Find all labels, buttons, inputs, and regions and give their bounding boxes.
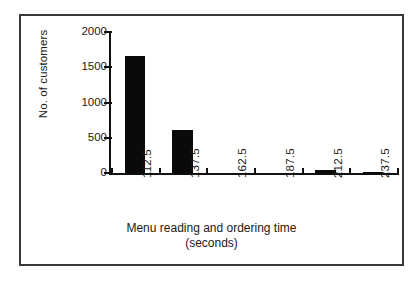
- x-tick-mark: [159, 168, 161, 175]
- y-tick-mark: [104, 102, 112, 104]
- x-tick-label: 137.5: [189, 148, 201, 178]
- x-tick-label: 162.5: [236, 148, 248, 178]
- x-tick-mark: [302, 168, 304, 175]
- y-tick-mark: [104, 31, 112, 33]
- x-tick-mark: [349, 168, 351, 175]
- x-axis-title: Menu reading and ordering time (seconds): [21, 221, 402, 251]
- bar-series: [111, 16, 397, 174]
- x-tick-label: 112.5: [141, 149, 153, 178]
- x-axis-title-line1: Menu reading and ordering time: [21, 221, 402, 236]
- x-tick-label: 212.5: [332, 148, 344, 178]
- y-axis-title: No. of customers: [37, 4, 49, 144]
- x-tick-mark: [397, 168, 399, 175]
- x-tick-mark: [254, 168, 256, 175]
- y-tick-mark: [104, 137, 112, 139]
- x-tick-label: 187.5: [284, 148, 296, 178]
- x-tick-label: 237.5: [379, 148, 391, 178]
- y-tick-label: 1000: [67, 97, 107, 109]
- x-axis-title-line2: (seconds): [21, 236, 402, 251]
- y-tick-label: 500: [67, 132, 107, 144]
- x-tick-mark: [206, 168, 208, 175]
- chart-figure: No. of customers 0500100015002000 Menu r…: [19, 14, 404, 266]
- y-tick-label: 0: [67, 167, 107, 179]
- x-tick-mark: [111, 168, 113, 175]
- plot-area: No. of customers 0500100015002000 Menu r…: [21, 16, 402, 264]
- y-tick-label: 1500: [67, 62, 107, 74]
- y-tick-mark: [104, 66, 112, 68]
- y-tick-label: 2000: [67, 26, 107, 38]
